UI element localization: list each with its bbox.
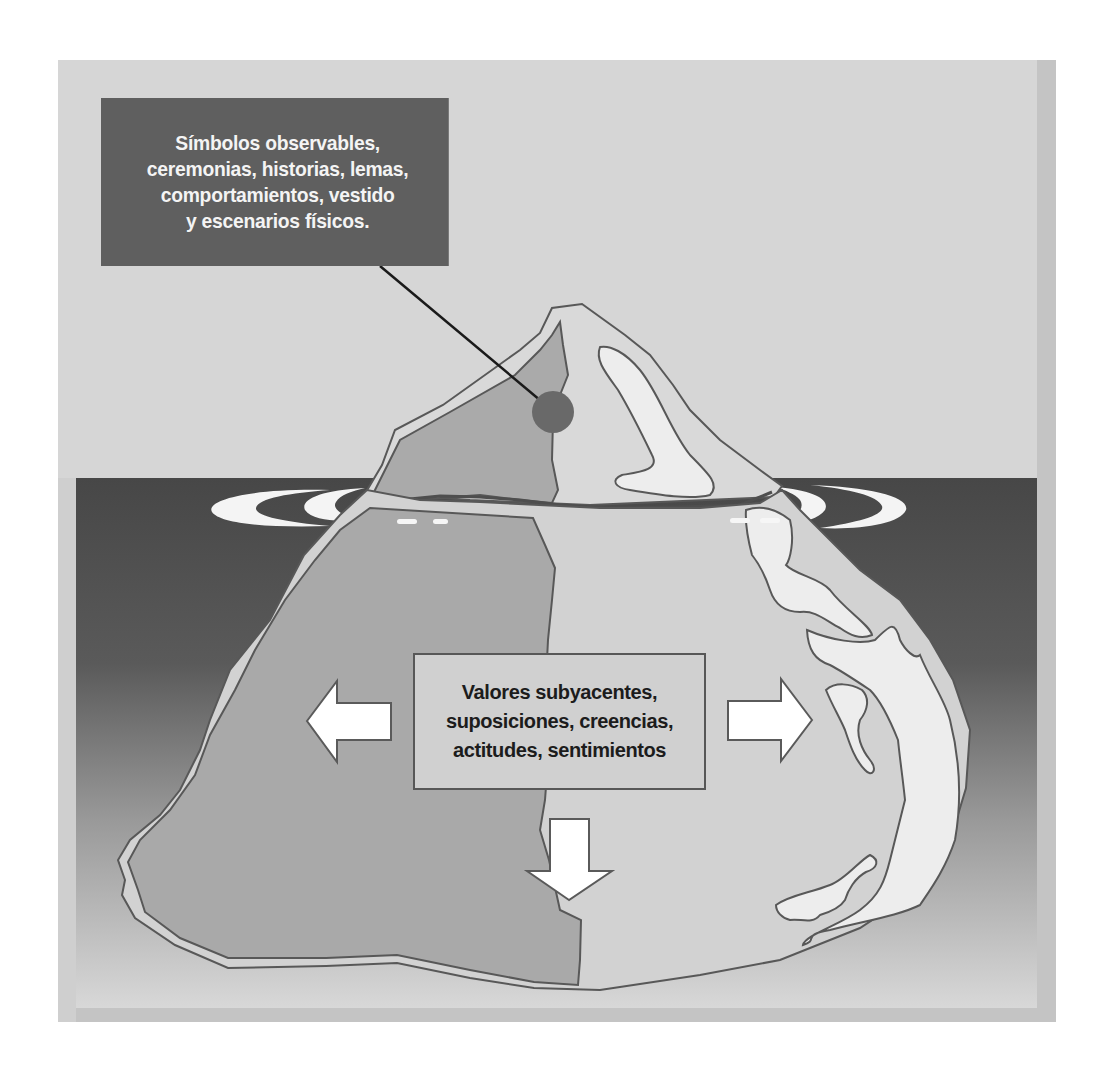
below-water-callout: Valores subyacentes, suposiciones, creen… (413, 653, 706, 790)
callout-line: Valores subyacentes, (446, 678, 673, 707)
callout-line: comportamientos, vestido (147, 182, 409, 208)
above-water-callout: Símbolos observables, ceremonias, histor… (101, 98, 449, 266)
callout-line: actitudes, sentimientos (446, 736, 673, 765)
callout-line: Símbolos observables, (147, 130, 409, 156)
marker-dot (532, 391, 574, 433)
callout-line: y escenarios físicos. (147, 208, 409, 234)
frame-left-band (58, 478, 76, 1022)
callout-line: suposiciones, creencias, (446, 707, 673, 736)
callout-line: ceremonias, historias, lemas, (147, 156, 409, 182)
